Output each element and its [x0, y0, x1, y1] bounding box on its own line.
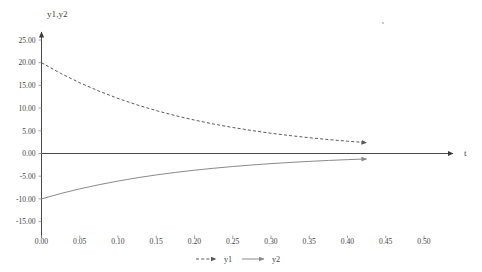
y-axis-tick-label: 15.00: [18, 81, 35, 90]
x-axis-tick-label: 0.30: [264, 237, 277, 246]
chart-container: 25.0020.0015.0010.005.000.00-5.00-10.00-…: [0, 0, 482, 272]
y-axis-tick-label: 20.00: [18, 58, 35, 67]
x-axis-tick-labels: 0.000.050.100.150.200.250.300.350.400.45…: [35, 237, 431, 246]
y-axis-tick-labels: 25.0020.0015.0010.005.000.00-5.00-10.00-…: [16, 36, 36, 227]
series-line-y1: [42, 63, 367, 143]
artifact-speck: [382, 22, 384, 24]
y-axis-tick-label: 25.00: [18, 36, 35, 45]
y-axis-tick-label: 10.00: [18, 104, 35, 113]
y-axis-title: y1,y2: [47, 9, 68, 19]
x-axis-tick-label: 0.15: [150, 237, 163, 246]
x-axis-tick-label: 0.00: [35, 237, 48, 246]
legend-label-y1: y1: [224, 255, 232, 264]
x-axis-tick-label: 0.20: [188, 237, 201, 246]
chart-plot-area: 25.0020.0015.0010.005.000.00-5.00-10.00-…: [0, 0, 482, 272]
legend-label-y2: y2: [272, 255, 280, 264]
x-axis-tick-label: 0.40: [341, 237, 354, 246]
x-axis-tick-label: 0.10: [111, 237, 124, 246]
x-axis-title: t: [464, 148, 467, 158]
series-line-y2: [42, 159, 367, 199]
x-axis-tick-label: 0.25: [226, 237, 239, 246]
x-axis-tick-label: 0.45: [379, 237, 392, 246]
y-axis-tick-label: 0.00: [22, 149, 35, 158]
x-axis-tick-label: 0.05: [73, 237, 86, 246]
y-axis-tick-label: -10.00: [16, 195, 36, 204]
y-axis-tick-label: 5.00: [22, 127, 35, 136]
x-axis-tick-label: 0.50: [417, 237, 430, 246]
y-axis-tick-label: -15.00: [16, 217, 36, 226]
y-axis-tick-label: -5.00: [20, 172, 36, 181]
x-axis-tick-label: 0.35: [303, 237, 316, 246]
legend: y1 y2: [196, 255, 280, 264]
